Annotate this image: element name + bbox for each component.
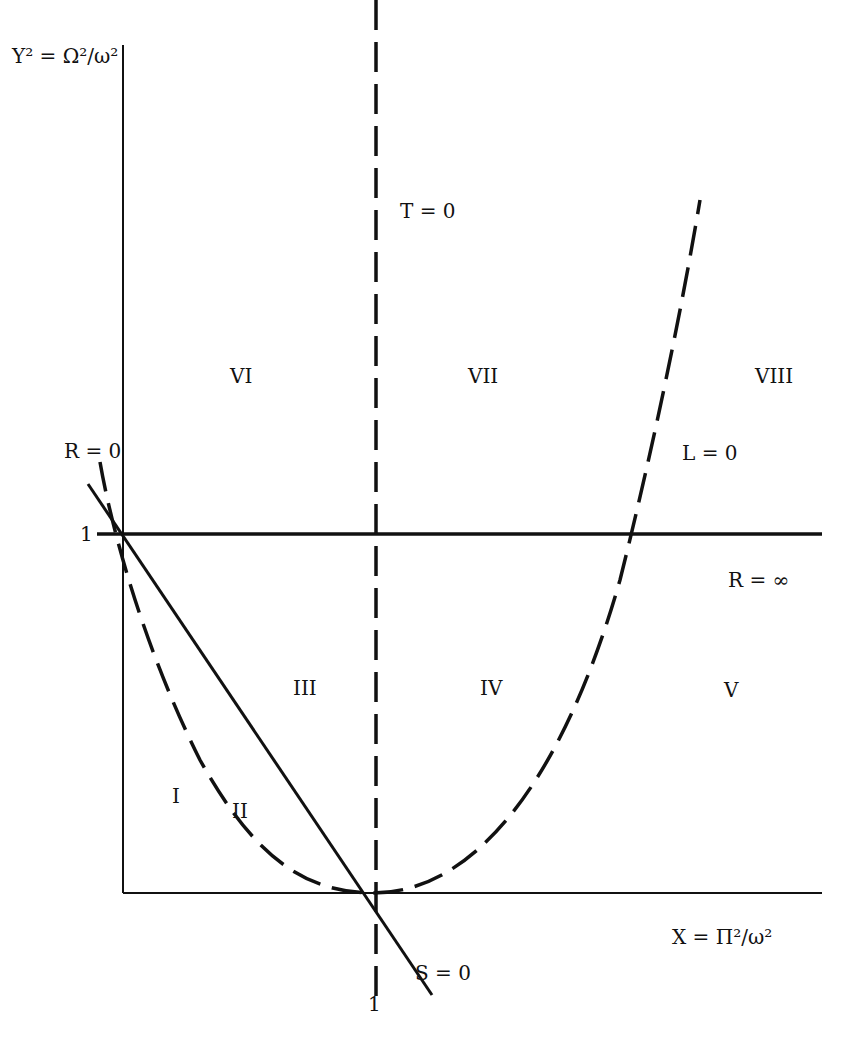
y-axis-label: Y² = Ω²/ω² [11,44,118,68]
r-infinity-label: R = ∞ [728,568,789,592]
region-ii: II [232,799,248,823]
x-axis-label: X = Π²/ω² [672,925,772,949]
region-vii: VII [467,364,498,388]
cma-diagram: Y² = Ω²/ω² X = Π²/ω² 1 1 T = 0 R = 0 L =… [0,0,850,1038]
region-iii: III [293,676,317,700]
x-tick-1: 1 [368,992,381,1016]
y-tick-1: 1 [80,522,93,546]
l-zero-label: L = 0 [682,441,737,465]
t-zero-label: T = 0 [400,199,456,223]
r-zero-label: R = 0 [64,439,121,463]
region-v: V [723,678,739,702]
region-i: I [172,784,180,808]
r-zero-l-zero-curve [100,200,700,893]
s-zero-label: S = 0 [415,961,471,985]
region-iv: IV [480,676,503,700]
region-vi: VI [229,364,252,388]
region-viii: VIII [754,364,793,388]
s-zero-line [88,484,432,995]
